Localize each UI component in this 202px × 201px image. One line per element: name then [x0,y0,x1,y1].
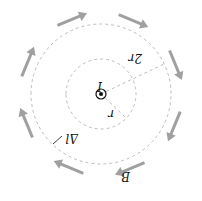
field-arrow [119,15,145,26]
field-arrow [170,50,181,76]
outer-radius-label: 2r [127,51,143,65]
inner-radius-label: r [107,107,114,121]
delta-l-label: Δl [65,131,79,145]
delta-l-arrow [53,136,62,144]
ampere-loop-diagram: I r 2r B Δl [0,0,202,201]
field-label: B [121,169,131,183]
field-arrow [57,163,83,174]
field-arrow [22,112,33,138]
current-label: I [97,79,103,93]
field-arrow [22,50,33,76]
field-arrow [170,112,181,138]
outer-radius-line [101,64,164,94]
field-arrow [57,15,83,26]
